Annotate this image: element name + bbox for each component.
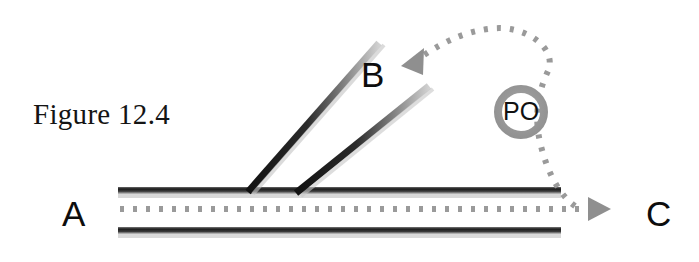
figure-diagram xyxy=(0,0,699,262)
horizontal-road-top-line xyxy=(118,187,561,198)
diagonal-branch-right-line xyxy=(296,86,433,196)
figure-caption: Figure 12.4 xyxy=(33,98,170,131)
node-label-b: B xyxy=(361,55,384,95)
figure-canvas: Figure 12.4 A B C PO xyxy=(0,0,699,262)
po-ring-label: PO xyxy=(503,97,539,126)
arrowhead-to-c xyxy=(588,197,611,221)
horizontal-road-bottom-line xyxy=(118,227,561,238)
arrowhead-to-b xyxy=(401,48,424,75)
node-label-a: A xyxy=(62,194,85,234)
node-label-c: C xyxy=(646,194,671,234)
